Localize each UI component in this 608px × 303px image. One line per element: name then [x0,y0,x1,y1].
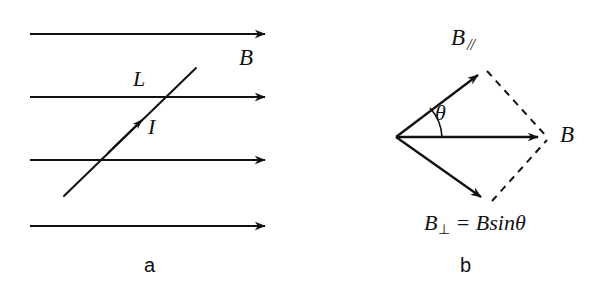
conductor-length-label-L: L [133,68,145,90]
perpendicular-symbol: B [424,210,437,235]
parallel-component-symbol: B [451,25,465,50]
field-label-B: B [239,46,253,69]
caption-b: b [460,255,471,275]
parallel-subscript-icon: // [465,36,474,53]
current-direction-arrow [108,120,142,153]
physics-figure: B L I a B// θ B B⊥= Bsinθ b [0,0,608,303]
conductor-group [64,68,196,196]
perpendicular-subscript-icon: ⊥ [437,222,450,237]
dashed-side-lower [492,140,547,201]
caption-a: a [144,255,155,275]
resultant-label-B: B [560,123,574,146]
current-label-I: I [148,116,155,138]
figure-canvas [0,0,608,303]
dashed-side-upper [487,71,546,136]
parallel-component-label: B// [451,26,474,53]
perpendicular-component-equation: B⊥= Bsinθ [424,212,526,237]
angle-label-theta: θ [435,102,446,124]
perpendicular-equation-rhs: = Bsinθ [450,210,525,235]
perpendicular-component-vector [396,137,481,197]
vector-diagram-group [396,71,547,201]
